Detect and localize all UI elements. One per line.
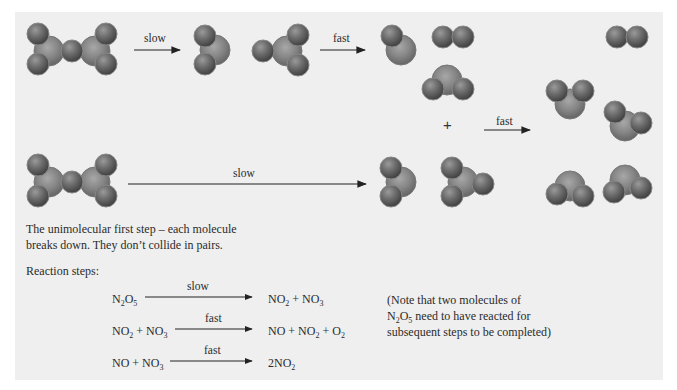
note-formula: N2O5 [387,309,412,323]
no3-molecule-bottom [441,157,494,207]
no2-product-2 [604,101,652,141]
step-1-condition: slow [187,280,209,292]
no2-product-1 [546,80,594,119]
note-text: (Note that two molecules of N2O5 need to… [387,292,551,340]
step-2-products: NO + NO2 + O2 [268,324,345,339]
arrow-fast-top-label: fast [333,32,350,44]
no-molecule [381,25,416,65]
no2-molecule-top [194,25,230,75]
plus-sign: + [443,116,452,133]
n2o5-molecule-top [27,23,117,75]
note-line-2-rest: need to have reacted for [412,309,530,323]
unimolecular-description: The unimolecular first step – each molec… [26,221,237,253]
arrow-slow-top-label: slow [144,32,166,44]
arrow-fast-middle-label: fast [496,115,513,127]
arrow-slow-bottom-label: slow [233,167,255,179]
note-line-3: subsequent steps to be completed) [387,324,551,340]
o2-molecule-2 [606,26,648,48]
step-3-products: 2NO2 [268,356,295,371]
description-line-2: breaks down. They don’t collide in pairs… [26,237,237,253]
step-1-products: NO2 + NO3 [268,292,323,307]
step-2-condition: fast [205,312,222,324]
no2-product-4 [603,165,652,203]
no2-molecule-middle [422,65,474,100]
no3-molecule-top [252,24,309,76]
description-line-1: The unimolecular first step – each molec… [26,221,237,237]
step-3-reactants: NO + NO3 [112,356,163,371]
n2o5-molecule-bottom [27,154,117,207]
no2-product-3 [546,171,594,207]
no2-molecule-bottom [380,157,416,207]
reaction-steps-heading: Reaction steps: [26,264,99,279]
o2-molecule-1 [432,26,474,48]
note-line-2: N2O5 need to have reacted for [387,308,551,324]
note-line-1: (Note that two molecules of [387,292,551,308]
step-1-reactants: N2O5 [112,292,137,307]
step-3-condition: fast [204,344,221,356]
step-2-reactants: NO2 + NO3 [112,324,167,339]
